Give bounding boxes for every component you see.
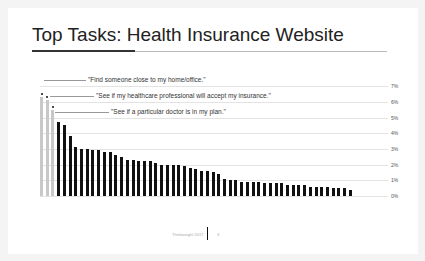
gridline (40, 133, 388, 134)
bar (143, 161, 146, 196)
bar (229, 180, 232, 196)
bar (280, 183, 283, 196)
bar (200, 171, 203, 196)
y-tick-label: 0% (391, 193, 398, 199)
bar (40, 97, 43, 196)
bar (132, 160, 135, 196)
bar (315, 187, 318, 196)
bar (154, 163, 157, 196)
callout-leader (44, 80, 86, 81)
callout-marker-icon (46, 96, 48, 98)
bar (160, 165, 163, 196)
bar (234, 180, 237, 196)
bar (74, 147, 77, 196)
callout-marker-icon (52, 106, 54, 108)
gridline (40, 86, 388, 87)
bar (349, 190, 352, 196)
y-tick-label: 4% (391, 130, 398, 136)
bar (137, 161, 140, 196)
bar (57, 122, 60, 196)
bar (217, 174, 220, 196)
y-tick-label: 6% (391, 99, 398, 105)
bar (292, 185, 295, 196)
callout-marker-icon (41, 93, 43, 95)
bar (103, 152, 106, 196)
callout-label: "See if my healthcare professional will … (96, 92, 271, 99)
y-tick-label: 5% (391, 115, 398, 121)
bar (51, 110, 54, 196)
y-tick-label: 2% (391, 162, 398, 168)
bar (320, 187, 323, 196)
bar (297, 185, 300, 196)
bar (240, 182, 243, 196)
bar (91, 150, 94, 196)
bar (246, 182, 249, 196)
bar (120, 157, 123, 196)
bar (326, 187, 329, 196)
bar (257, 182, 260, 196)
bar (183, 166, 186, 196)
y-tick-label: 3% (391, 146, 398, 152)
y-tick-label: 7% (391, 83, 398, 89)
callout-leader (50, 96, 94, 97)
bar (177, 165, 180, 196)
footer-divider (207, 227, 208, 240)
bar (269, 183, 272, 196)
bar (332, 188, 335, 196)
bar (252, 182, 255, 196)
bar (109, 152, 112, 196)
bar (223, 179, 226, 196)
bar (189, 168, 192, 196)
bar (149, 161, 152, 196)
bar (126, 160, 129, 196)
callout-leader (55, 112, 109, 113)
gridline (40, 118, 388, 119)
bar (263, 183, 266, 196)
y-tick-label: 1% (391, 177, 398, 183)
callout-label: "Find someone close to my home/office." (88, 76, 206, 83)
bar (63, 125, 66, 196)
callout-label: "See if a particular doctor is in my pla… (111, 108, 226, 115)
bar (337, 188, 340, 196)
bar (97, 150, 100, 196)
bar (206, 171, 209, 196)
bar (212, 172, 215, 196)
bar (309, 187, 312, 196)
bar (343, 188, 346, 196)
bar (194, 169, 197, 196)
gridline (40, 196, 388, 197)
footer-text: Thinkweight 2017 (172, 232, 203, 237)
bar (80, 149, 83, 196)
gridline (40, 102, 388, 103)
bar (275, 183, 278, 196)
bar (69, 136, 72, 196)
bar (286, 185, 289, 196)
bar (86, 149, 89, 196)
bar (114, 155, 117, 196)
bar-chart: 0%1%2%3%4%5%6%7%"Find someone close to m… (0, 0, 425, 261)
page-number: 3 (217, 232, 219, 237)
bar (166, 165, 169, 196)
bar (303, 185, 306, 196)
bar (172, 165, 175, 196)
bar (46, 100, 49, 196)
